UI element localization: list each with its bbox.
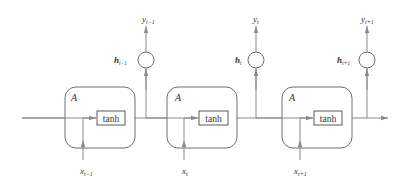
hidden-state-node: [138, 52, 154, 68]
hidden-state-node: [359, 52, 375, 68]
tanh-label: tanh: [205, 114, 222, 124]
hidden-state-node: [248, 52, 264, 68]
output-label: yt: [252, 14, 259, 25]
input-label: xt−1: [79, 166, 93, 177]
cell-label: A: [70, 92, 78, 103]
rnn-diagram: A tanh xt−1 yt−1 ht−1 A tanh xt: [0, 0, 403, 185]
hidden-label: ht: [235, 55, 242, 66]
hidden-label: ht−1: [114, 55, 127, 66]
input-label: xt: [181, 166, 188, 177]
output-label: yt−1: [141, 14, 155, 25]
rnn-cell-2: A tanh xt yt ht: [146, 14, 264, 177]
rnn-cell-3: A tanh xt+1 yt+1 ht+1: [256, 14, 375, 177]
cell-label: A: [174, 92, 182, 103]
cell-label: A: [288, 92, 296, 103]
rnn-cell-1: A tanh xt−1 yt−1 ht−1: [22, 14, 155, 177]
output-label: yt+1: [360, 14, 374, 25]
tanh-label: tanh: [103, 114, 120, 124]
input-label: xt+1: [293, 166, 307, 177]
hidden-label: ht+1: [337, 55, 350, 66]
tanh-label: tanh: [320, 114, 337, 124]
